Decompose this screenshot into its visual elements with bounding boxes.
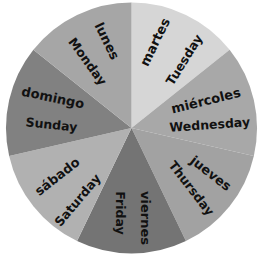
spanish-label: viernes	[138, 191, 153, 245]
days-of-week-pie-chart: martes Tuesday miércoles Wednesday jueve…	[0, 0, 263, 259]
english-label: Friday	[113, 191, 128, 234]
